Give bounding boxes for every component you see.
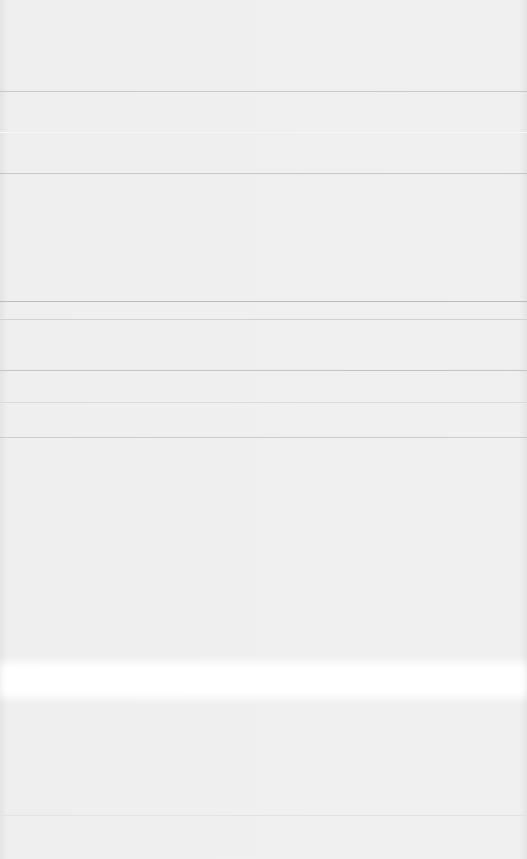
divider-line bbox=[0, 437, 527, 438]
divider-line bbox=[0, 319, 527, 320]
divider-line bbox=[0, 301, 527, 302]
divider-line bbox=[0, 132, 527, 133]
divider-line bbox=[0, 402, 527, 403]
highlight-band bbox=[0, 662, 527, 698]
divider-line bbox=[0, 173, 527, 174]
divider-line bbox=[0, 815, 527, 816]
divider-line bbox=[0, 370, 527, 371]
blank-screen-frame bbox=[0, 0, 527, 859]
divider-line bbox=[0, 91, 527, 92]
